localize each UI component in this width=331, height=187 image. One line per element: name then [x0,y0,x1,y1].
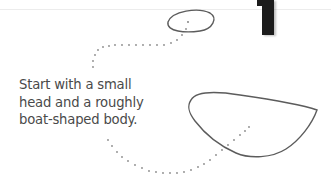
head-center-dot [187,21,189,23]
head-oval [168,10,214,32]
caption-line-1: Start with a small [19,76,169,94]
body-boat [189,92,317,156]
caption-line-3: boat-shaped body. [19,111,169,129]
dotted-guide-upper [92,28,187,68]
caption-line-2: head and a roughly [19,94,169,112]
step-caption: Start with a small head and a roughly bo… [19,76,169,129]
